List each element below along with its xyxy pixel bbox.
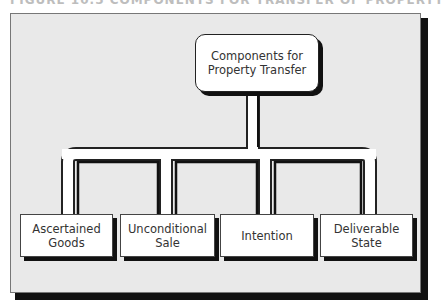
leaf-intention: Intention [220, 214, 314, 257]
leaf-deliverable-state: Deliverable State [320, 214, 413, 257]
root-node-line2: Property Transfer [208, 63, 307, 77]
leaf-label-line1: Intention [241, 229, 293, 243]
leaf-label-line1: Ascertained [32, 222, 100, 236]
root-node-line1: Components for [211, 49, 303, 63]
leaf-label-line2: Sale [155, 236, 180, 250]
leaf-unconditional-sale: Unconditional Sale [120, 214, 215, 257]
leaf-label-line1: Unconditional [128, 222, 207, 236]
leaf-label-line2: Goods [48, 236, 84, 250]
leaf-ascertained-goods: Ascertained Goods [20, 214, 113, 257]
leaf-label-line1: Deliverable [334, 222, 400, 236]
root-node: Components for Property Transfer [195, 34, 319, 92]
leaf-label-line2: State [351, 236, 381, 250]
